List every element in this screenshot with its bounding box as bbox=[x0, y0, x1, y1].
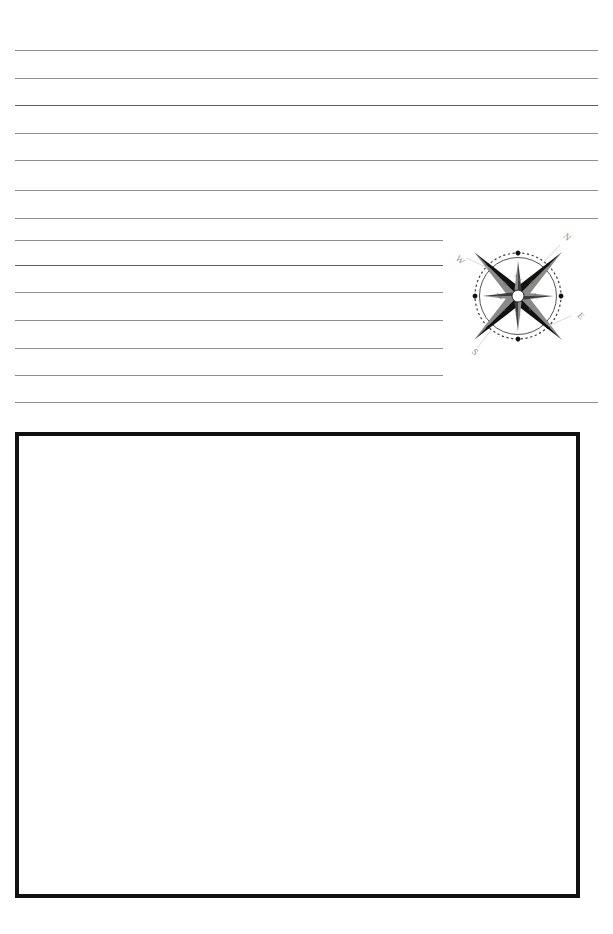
compass-label-east: E bbox=[576, 310, 587, 321]
writing-line bbox=[15, 292, 443, 293]
writing-line bbox=[15, 105, 598, 106]
writing-line bbox=[15, 240, 443, 241]
svg-text:NW: NW bbox=[513, 273, 523, 283]
compass-rose-body: N NE E SE S SW W NW bbox=[447, 222, 589, 372]
writing-line bbox=[15, 160, 598, 161]
compass-rose: N NE E SE S SW W NW N E S W bbox=[447, 222, 589, 372]
compass-rose-svg: N NE E SE S SW W NW N E S W bbox=[447, 222, 589, 372]
compass-label-south: S bbox=[470, 347, 481, 358]
writing-line bbox=[15, 190, 598, 191]
compass-label-north: N bbox=[561, 231, 573, 243]
writing-line bbox=[15, 218, 598, 219]
writing-line bbox=[15, 320, 443, 321]
writing-line bbox=[15, 133, 598, 134]
answer-box-content[interactable] bbox=[19, 436, 576, 894]
answer-box[interactable] bbox=[15, 432, 580, 898]
svg-text:NE: NE bbox=[532, 292, 540, 300]
compass-label-west: W bbox=[454, 253, 467, 266]
writing-line bbox=[15, 375, 443, 376]
writing-line bbox=[15, 50, 598, 51]
svg-text:SW: SW bbox=[495, 292, 504, 301]
writing-line bbox=[15, 402, 598, 403]
writing-line bbox=[15, 78, 598, 79]
worksheet-page: N NE E SE S SW W NW N E S W bbox=[0, 0, 613, 934]
writing-line bbox=[15, 265, 443, 266]
writing-line bbox=[15, 348, 443, 349]
